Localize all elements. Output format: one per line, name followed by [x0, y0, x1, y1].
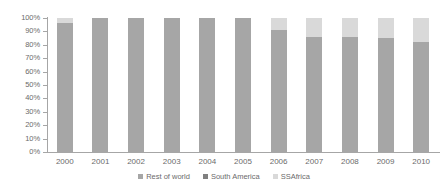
y-axis-tick-label: 0%: [0, 148, 40, 156]
bar-segment: [413, 42, 429, 152]
bar-segment: [306, 37, 322, 152]
legend-swatch-icon: [138, 174, 143, 179]
bar-stack: [306, 18, 322, 152]
bar-stack: [235, 18, 251, 152]
chart-legend: Rest of worldSouth AmericaSSAfrica: [0, 172, 448, 181]
bar-column: [164, 18, 180, 152]
y-axis-tick-label: 100%: [0, 14, 40, 22]
bar-column: [128, 18, 144, 152]
bar-segment: [342, 18, 358, 37]
bar-column: [306, 18, 322, 152]
y-axis-tick-mark: [43, 18, 47, 19]
y-axis-tick-label: 50%: [0, 81, 40, 89]
legend-swatch-icon: [273, 174, 278, 179]
y-axis-tick-mark: [43, 72, 47, 73]
bar-segment: [57, 23, 73, 152]
legend-label: Rest of world: [146, 172, 190, 181]
y-axis-tick-mark: [43, 98, 47, 99]
bar-segment: [342, 37, 358, 152]
bar-segment: [164, 18, 180, 152]
y-axis-tick-mark: [43, 152, 47, 153]
bar-column: [92, 18, 108, 152]
bar-segment: [271, 30, 287, 152]
y-axis-tick-mark: [43, 58, 47, 59]
bar-stack: [271, 18, 287, 152]
y-axis-tick-label: 90%: [0, 27, 40, 35]
bar-segment: [199, 18, 215, 152]
legend-label: SSAfrica: [281, 172, 310, 181]
x-axis-tick-label: 2002: [118, 156, 154, 168]
bar-stack: [164, 18, 180, 152]
bar-segment: [306, 18, 322, 37]
bar-segment: [378, 18, 394, 38]
legend-item[interactable]: SSAfrica: [273, 172, 310, 181]
x-axis: 2000200120022003200420052006200720082009…: [47, 156, 439, 170]
bar-stack: [57, 18, 73, 152]
x-axis-tick-label: 2007: [296, 156, 332, 168]
bar-column: [199, 18, 215, 152]
bar-column: [57, 18, 73, 152]
x-axis-tick-label: 2010: [403, 156, 439, 168]
y-axis-tick-mark: [43, 125, 47, 126]
x-axis-tick-label: 2008: [332, 156, 368, 168]
legend-label: South America: [211, 172, 260, 181]
x-axis-tick-label: 2000: [47, 156, 83, 168]
y-axis-tick-mark: [43, 45, 47, 46]
y-axis-tick-label: 20%: [0, 121, 40, 129]
legend-item[interactable]: South America: [203, 172, 260, 181]
bar-stack: [199, 18, 215, 152]
x-axis-tick-label: 2001: [83, 156, 119, 168]
y-axis-tick-label: 80%: [0, 41, 40, 49]
bar-segment: [235, 18, 251, 152]
stacked-bar-chart: 0%10%20%30%40%50%60%70%80%90%100% 200020…: [0, 0, 448, 192]
y-axis-tick-label: 60%: [0, 68, 40, 76]
x-axis-tick-label: 2009: [368, 156, 404, 168]
bar-stack: [413, 18, 429, 152]
x-axis-tick-label: 2003: [154, 156, 190, 168]
y-axis-tick-mark: [43, 139, 47, 140]
legend-swatch-icon: [203, 174, 208, 179]
y-axis: 0%10%20%30%40%50%60%70%80%90%100%: [0, 18, 40, 152]
x-axis-tick-label: 2004: [190, 156, 226, 168]
bar-stack: [128, 18, 144, 152]
y-axis-tick-label: 10%: [0, 135, 40, 143]
y-axis-tick-label: 30%: [0, 108, 40, 116]
x-axis-line: [47, 152, 440, 153]
bar-segment: [378, 38, 394, 152]
x-axis-tick-label: 2006: [261, 156, 297, 168]
x-axis-tick-label: 2005: [225, 156, 261, 168]
bar-column: [378, 18, 394, 152]
bar-stack: [342, 18, 358, 152]
bar-segment: [271, 18, 287, 30]
legend-item[interactable]: Rest of world: [138, 172, 190, 181]
y-axis-tick-mark: [43, 85, 47, 86]
bar-segment: [128, 18, 144, 152]
bar-column: [235, 18, 251, 152]
bar-column: [342, 18, 358, 152]
y-axis-tick-mark: [43, 31, 47, 32]
bar-segment: [413, 18, 429, 42]
bar-stack: [378, 18, 394, 152]
bar-column: [413, 18, 429, 152]
bar-segment: [92, 18, 108, 152]
bar-column: [271, 18, 287, 152]
plot-area: [47, 18, 439, 152]
y-axis-tick-label: 40%: [0, 94, 40, 102]
bar-stack: [92, 18, 108, 152]
y-axis-tick-mark: [43, 112, 47, 113]
y-axis-tick-label: 70%: [0, 54, 40, 62]
